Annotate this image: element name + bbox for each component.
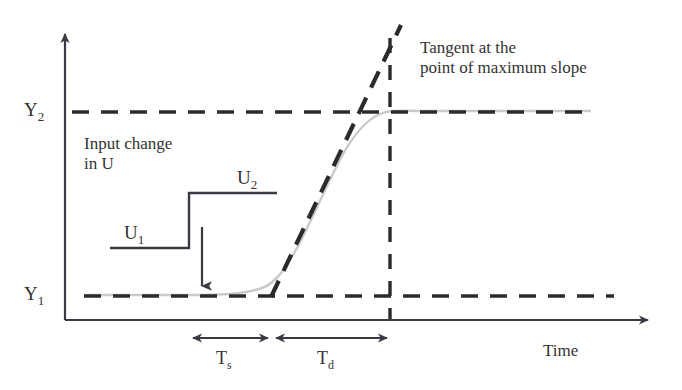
- y2-axis-label: Y2: [24, 99, 44, 124]
- ts-dimension-label: Ts: [216, 348, 232, 372]
- step-response-figure: Y2 Y1 U2 U1 Ts Td Time Input change in U…: [0, 0, 682, 390]
- input-change-annotation: Input change in U: [84, 134, 172, 174]
- tangent-annotation-line2: point of maximum slope: [420, 58, 587, 78]
- input-change-annotation-line1: Input change: [84, 134, 172, 154]
- td-dimension-label: Td: [317, 348, 334, 372]
- time-axis-label: Time: [543, 341, 578, 361]
- tangent-annotation: Tangent at the point of maximum slope: [420, 38, 587, 78]
- y1-axis-label: Y1: [24, 283, 44, 308]
- u1-signal-label: U1: [124, 222, 144, 247]
- tangent-line: [271, 25, 401, 297]
- tangent-annotation-line1: Tangent at the: [420, 38, 587, 58]
- u2-signal-label: U2: [237, 167, 257, 192]
- input-change-annotation-line2: in U: [84, 154, 172, 174]
